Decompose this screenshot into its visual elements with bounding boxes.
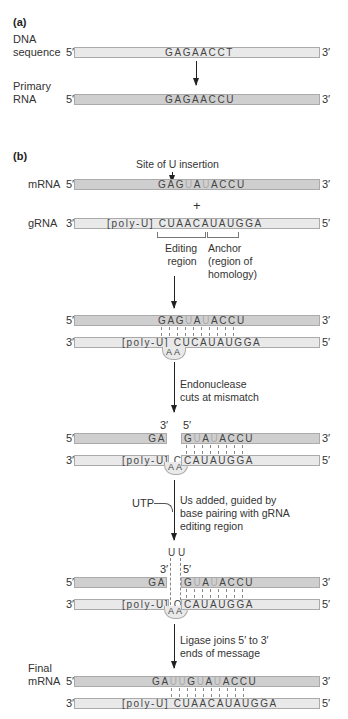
utp-note-3: editing region [180, 520, 290, 533]
s2-mrna-left-strand: GA [74, 433, 167, 444]
s2-mrna-right-strand: GUAUACCU [181, 433, 320, 444]
utp-note: Us added, guided by base pairing with gR… [180, 494, 290, 533]
s3-cut-3: 3′ [160, 563, 168, 575]
utp-pointer [154, 503, 173, 512]
s2-mrna-left-seq: GA [148, 433, 166, 444]
final-label-1: Final [28, 662, 60, 675]
s3-mrna-3: 3′ [322, 576, 330, 588]
final-mrna-sequence: GAUUGUAUACCU [152, 676, 257, 687]
s3-mrna-right-seq: GUAUACCU [184, 577, 254, 588]
ligase-note-2: ends of message [180, 647, 269, 660]
s1-mrna-strand: GAGUAUACCU [74, 315, 320, 326]
utp-label: UTP [132, 497, 154, 509]
s2-mrna-3: 3′ [322, 432, 330, 444]
mrna-3-end: 3′ [322, 178, 330, 190]
rna-label-line1: Primary [13, 80, 51, 93]
s2-cut-3: 3′ [160, 419, 168, 431]
s1-mrna-5: 5′ [66, 314, 74, 326]
primary-rna-strand: GAGAACCU [74, 94, 320, 105]
final-mrna-label: Final mRNA [28, 662, 60, 688]
dna-strand: GAGAACCT [74, 47, 320, 58]
s3-grna-3: 3′ [66, 598, 74, 610]
s3-mrna-left-seq: GA [148, 577, 166, 588]
primary-rna-label: Primary RNA [13, 80, 51, 106]
grna-label: gRNA [28, 217, 57, 230]
endonuclease-note-2: cuts at mismatch [180, 391, 259, 404]
editing-region-label: Editing region [165, 242, 197, 268]
step4-arrow-icon [174, 624, 175, 668]
rna-sequence: GAGAACCU [165, 94, 235, 105]
s3-mrna-5: 5′ [66, 576, 74, 588]
step1-arrow-icon [174, 276, 175, 308]
final-mrna-5: 5′ [66, 675, 74, 687]
s3-mrna-left-strand: GA [74, 577, 167, 588]
final-mrna-strand: GAUUGUAUACCU [74, 676, 320, 687]
s3-added-uu: U U [168, 547, 185, 558]
utp-note-1: Us added, guided by [180, 494, 290, 507]
editing-region-bracket [157, 232, 206, 238]
s1-grna-sequence: [poly-U] CUCAUAUGGA [122, 337, 261, 348]
s1-grna-strand: [poly-U] CUCAUAUGGA [74, 337, 320, 348]
ligase-note: Ligase joins 5′ to 3′ ends of message [180, 634, 269, 660]
s2-grna-3: 3′ [66, 454, 74, 466]
s2-grna-left-strand: [poly-U] CU [74, 455, 169, 466]
dna-3-end: 3′ [322, 46, 330, 58]
transcription-arrow-icon [196, 61, 197, 85]
s2-grna-5: 5′ [322, 454, 330, 466]
anchor-label: Anchor (region of homology) [208, 242, 257, 281]
anchor-label-1: Anchor [208, 242, 257, 255]
s1-grna-5: 5′ [322, 336, 330, 348]
final-label-2: mRNA [28, 675, 60, 688]
s2-mrna-right-seq: GUAUACCU [184, 433, 254, 444]
step2-arrow-icon [174, 362, 175, 412]
editing-label-1: Editing [165, 242, 197, 255]
mrna-strand: GAGUAUACCU [74, 179, 320, 190]
s1-mrna-sequence: GAGUAUACCU [158, 315, 246, 326]
s2-mrna-5: 5′ [66, 432, 74, 444]
panel-b-label: (b) [13, 150, 27, 162]
s1-aa-loop: AA [162, 347, 186, 360]
dna-label-line2: sequence [13, 46, 61, 59]
mrna-label: mRNA [28, 178, 60, 191]
grna-5-end: 5′ [322, 217, 330, 229]
plus-sign: + [193, 198, 201, 213]
dna-label-line1: DNA [13, 33, 61, 46]
utp-note-2: base pairing with gRNA [180, 507, 290, 520]
final-grna-sequence: [poly-U] CUAACAUAUGGA [122, 698, 278, 709]
site-label: Site of U insertion [136, 158, 219, 171]
final-grna-3: 3′ [66, 697, 74, 709]
s3-grna-right-strand: CAUAUGGA [181, 599, 320, 610]
dna-5-end: 5′ [66, 46, 74, 58]
grna-strand: [poly-U] CUAACAUAUGGA [74, 218, 320, 229]
mrna-5-end: 5′ [66, 178, 74, 190]
s3-cut-5: 5′ [183, 563, 191, 575]
dna-sequence: GAGAACCT [165, 47, 234, 58]
endonuclease-note-1: Endonuclease [180, 378, 259, 391]
s2-grna-right-seq: CAUAUGGA [184, 455, 254, 466]
dna-label: DNA sequence [13, 33, 61, 59]
s1-grna-3: 3′ [66, 336, 74, 348]
endonuclease-note: Endonuclease cuts at mismatch [180, 378, 259, 404]
s2-cut-5: 5′ [183, 419, 191, 431]
anchor-label-2: (region of [208, 255, 257, 268]
final-grna-5: 5′ [322, 697, 330, 709]
s3-mrna-right-strand: GUAUACCU [181, 577, 320, 588]
grna-sequence: [poly-U] CUAACAUAUGGA [107, 218, 263, 229]
anchor-bracket [207, 232, 239, 238]
mrna-sequence: GAGUAUACCU [158, 179, 246, 190]
ligase-note-1: Ligase joins 5′ to 3′ [180, 634, 269, 647]
grna-3-end: 3′ [66, 217, 74, 229]
s3-grna-left-strand: [poly-U] CU [74, 599, 169, 610]
final-mrna-3: 3′ [322, 675, 330, 687]
s1-mrna-3: 3′ [322, 314, 330, 326]
rna-3-end: 3′ [322, 93, 330, 105]
rna-5-end: 5′ [66, 93, 74, 105]
anchor-label-3: homology) [208, 268, 257, 281]
editing-label-2: region [165, 255, 197, 268]
rna-label-line2: RNA [13, 93, 51, 106]
s3-grna-right-seq: CAUAUGGA [184, 599, 254, 610]
s2-grna-right-strand: CAUAUGGA [181, 455, 320, 466]
panel-a-label: (a) [13, 16, 26, 28]
s3-grna-5: 5′ [322, 598, 330, 610]
final-grna-strand: [poly-U] CUAACAUAUGGA [74, 698, 320, 709]
